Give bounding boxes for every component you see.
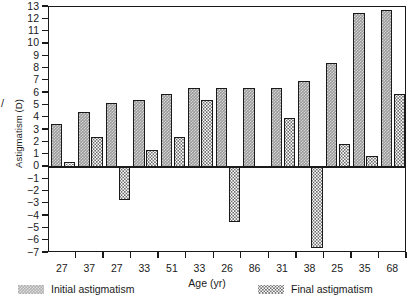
bar-final: [146, 150, 158, 167]
x-tick: [213, 252, 214, 258]
legend-swatch-final-icon: [258, 285, 284, 294]
legend-swatch-initial-icon: [18, 285, 44, 294]
x-tick: [130, 252, 131, 258]
y-tick-label: 13: [13, 1, 39, 12]
legend-label-initial: Initial astigmatism: [51, 283, 134, 295]
legend-item-final: Final astigmatism: [258, 283, 373, 295]
bar-initial: [78, 112, 90, 167]
bar-initial: [51, 124, 63, 166]
x-tick-label: 25: [322, 262, 352, 274]
bar-final: [229, 167, 241, 222]
plot-area: [48, 6, 406, 252]
x-tick-label: 37: [74, 262, 104, 274]
bar-initial: [133, 100, 145, 167]
x-tick-label: 27: [102, 262, 132, 274]
bar-final: [284, 118, 296, 167]
bar-initial: [271, 88, 283, 167]
y-tick-label: 1: [13, 148, 39, 159]
x-tick-label: 68: [377, 262, 407, 274]
y-tick-label: 3: [13, 124, 39, 135]
bar-final: [339, 144, 351, 167]
y-tick-label: 12: [13, 13, 39, 24]
x-tick-label: 35: [350, 262, 380, 274]
bar-final: [64, 162, 76, 167]
legend-item-initial: Initial astigmatism: [18, 283, 134, 295]
x-tick: [75, 252, 76, 258]
chart-figure: / Astigmatism (D) 131211109876543210−1−2…: [0, 0, 414, 302]
y-tick-label: −3: [13, 197, 39, 208]
y-tick-label: 0: [13, 160, 39, 171]
x-tick: [185, 252, 186, 258]
bar-final: [119, 167, 131, 200]
x-tick-label: 86: [240, 262, 270, 274]
y-tick-label: 7: [13, 74, 39, 85]
bar-initial: [216, 88, 228, 167]
x-tick: [268, 252, 269, 258]
y-tick-label: 9: [13, 50, 39, 61]
x-tick: [405, 252, 406, 258]
x-tick-label: 26: [212, 262, 242, 274]
y-tick-label: 11: [13, 25, 39, 36]
bar-final: [394, 94, 406, 167]
bar-final: [91, 137, 103, 167]
y-tick-label: 5: [13, 99, 39, 110]
bar-initial: [298, 81, 310, 166]
bar-initial: [326, 63, 338, 167]
y-tick-label: −5: [13, 222, 39, 233]
x-tick: [350, 252, 351, 258]
x-tick-label: 33: [184, 262, 214, 274]
x-tick: [157, 252, 158, 258]
bar-initial: [243, 88, 255, 167]
y-tick-label: −2: [13, 185, 39, 196]
bar-initial: [106, 103, 118, 167]
bar-final: [311, 167, 323, 248]
bar-initial: [381, 10, 393, 167]
x-tick-label: 33: [129, 262, 159, 274]
axis-stub-mark: /: [1, 97, 4, 109]
x-tick-label: 38: [295, 262, 325, 274]
bar-final: [201, 100, 213, 166]
x-tick: [102, 252, 103, 258]
y-tick-label: −1: [13, 173, 39, 184]
x-tick-label: 27: [47, 262, 77, 274]
y-tick-label: −6: [13, 234, 39, 245]
x-tick-label: 51: [157, 262, 187, 274]
y-tick-label: 8: [13, 62, 39, 73]
x-tick: [240, 252, 241, 258]
y-tick-label: −4: [13, 210, 39, 221]
bar-final: [174, 137, 186, 167]
y-tick-label: 2: [13, 136, 39, 147]
x-tick-label: 31: [267, 262, 297, 274]
bar-initial: [161, 94, 173, 167]
x-tick: [323, 252, 324, 258]
y-tick-label: −7: [13, 247, 39, 258]
legend-label-final: Final astigmatism: [291, 283, 373, 295]
x-tick: [295, 252, 296, 258]
y-tick-label: 6: [13, 87, 39, 98]
bar-initial: [188, 88, 200, 167]
y-tick-label: 10: [13, 37, 39, 48]
bar-initial: [353, 13, 365, 167]
x-tick: [378, 252, 379, 258]
bar-final: [366, 156, 378, 166]
y-tick-label: 4: [13, 111, 39, 122]
